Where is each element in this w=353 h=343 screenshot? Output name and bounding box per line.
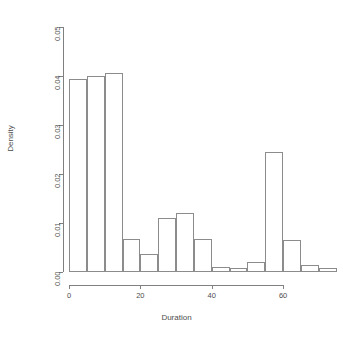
- y-axis-title: Density: [6, 99, 15, 179]
- y-axis-tick-label: 0.00: [54, 272, 63, 287]
- x-axis-tick: [69, 285, 70, 289]
- x-axis-title: Duration: [0, 313, 353, 322]
- histogram-bar: [123, 239, 141, 272]
- x-axis-tick-label: 60: [268, 291, 298, 300]
- histogram-figure: 0.000.010.020.030.040.05 0204060 Duratio…: [0, 0, 353, 343]
- histogram-bar: [105, 73, 123, 272]
- x-axis-line: [69, 285, 283, 286]
- x-axis-tick-label: 40: [197, 291, 227, 300]
- histogram-bar: [283, 240, 301, 272]
- bar-series: [0, 0, 353, 343]
- histogram-bar: [176, 213, 194, 272]
- histogram-bar: [69, 79, 87, 272]
- histogram-bar: [158, 218, 176, 272]
- histogram-bar: [230, 268, 248, 272]
- histogram-bar: [140, 254, 158, 272]
- histogram-bar: [301, 265, 319, 272]
- histogram-bar: [319, 268, 337, 272]
- x-axis-tick: [212, 285, 213, 289]
- histogram-bar: [87, 76, 105, 272]
- histogram-bar: [265, 152, 283, 272]
- x-axis-tick-label: 20: [125, 291, 155, 300]
- histogram-bar: [194, 239, 212, 272]
- x-axis-tick: [283, 285, 284, 289]
- y-axis-tick-label: 0.03: [54, 125, 63, 140]
- y-axis-tick-label: 0.05: [54, 27, 63, 42]
- x-axis-tick-label: 0: [54, 291, 84, 300]
- y-axis-tick-label: 0.02: [54, 174, 63, 189]
- y-axis-tick-label: 0.01: [54, 223, 63, 238]
- histogram-bar: [247, 262, 265, 272]
- histogram-bar: [212, 267, 230, 272]
- y-axis-tick-label: 0.04: [54, 76, 63, 91]
- y-axis-line: [63, 27, 64, 272]
- x-axis-tick: [140, 285, 141, 289]
